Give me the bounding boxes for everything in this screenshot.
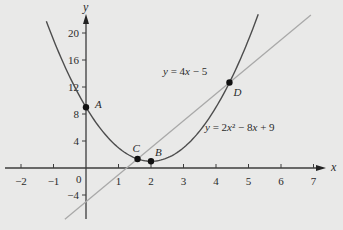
line-equation-label: y = 4x − 5 bbox=[162, 65, 208, 77]
x-axis-arrow-icon bbox=[316, 165, 326, 171]
equation-labels: y = 2x² − 8x + 9y = 4x − 5 bbox=[162, 65, 275, 133]
x-tick-label: −1 bbox=[48, 175, 60, 187]
x-axis-label: x bbox=[330, 160, 337, 174]
point-b bbox=[148, 158, 154, 164]
x-tick-label: −2 bbox=[15, 175, 27, 187]
point-d bbox=[226, 79, 232, 85]
y-tick-label: 16 bbox=[68, 54, 80, 66]
point-label-c: C bbox=[133, 142, 141, 154]
x-tick-label: 4 bbox=[213, 175, 219, 187]
point-c bbox=[134, 156, 140, 162]
linear-line bbox=[65, 15, 311, 219]
point-label-a: A bbox=[94, 98, 102, 110]
y-tick-label: 8 bbox=[74, 108, 80, 120]
point-a bbox=[83, 104, 89, 110]
x-tick-label: 3 bbox=[181, 175, 187, 187]
axes: x y 0 −2−11234567 −448121620 bbox=[5, 0, 337, 219]
x-tick-label: 2 bbox=[148, 175, 154, 187]
y-tick-label: 20 bbox=[68, 27, 80, 39]
y-axis-arrow-icon bbox=[83, 14, 89, 24]
point-label-d: D bbox=[232, 86, 241, 98]
y-axis-label: y bbox=[82, 0, 89, 14]
y-tick-label: −4 bbox=[67, 189, 79, 201]
point-label-b: B bbox=[155, 146, 162, 158]
x-tick-label: 6 bbox=[278, 175, 284, 187]
y-tick-label: 4 bbox=[74, 135, 80, 147]
origin-label: 0 bbox=[76, 173, 82, 185]
parabola-equation-label: y = 2x² − 8x + 9 bbox=[204, 121, 275, 133]
chart: x y 0 −2−11234567 −448121620 ABCD y = 2x… bbox=[0, 0, 343, 230]
x-tick-label: 5 bbox=[246, 175, 252, 187]
x-tick-label: 7 bbox=[311, 175, 317, 187]
